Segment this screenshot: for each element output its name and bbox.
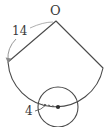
base-radius-label-4: 4 [25,105,33,117]
geometry-figure-svg [0,0,109,127]
slant-radius-label-14: 14 [12,25,27,37]
geometry-figure-container: O 14 4 [0,0,109,127]
apex-label-o: O [50,4,61,17]
base-circle-center-dot [56,105,60,109]
